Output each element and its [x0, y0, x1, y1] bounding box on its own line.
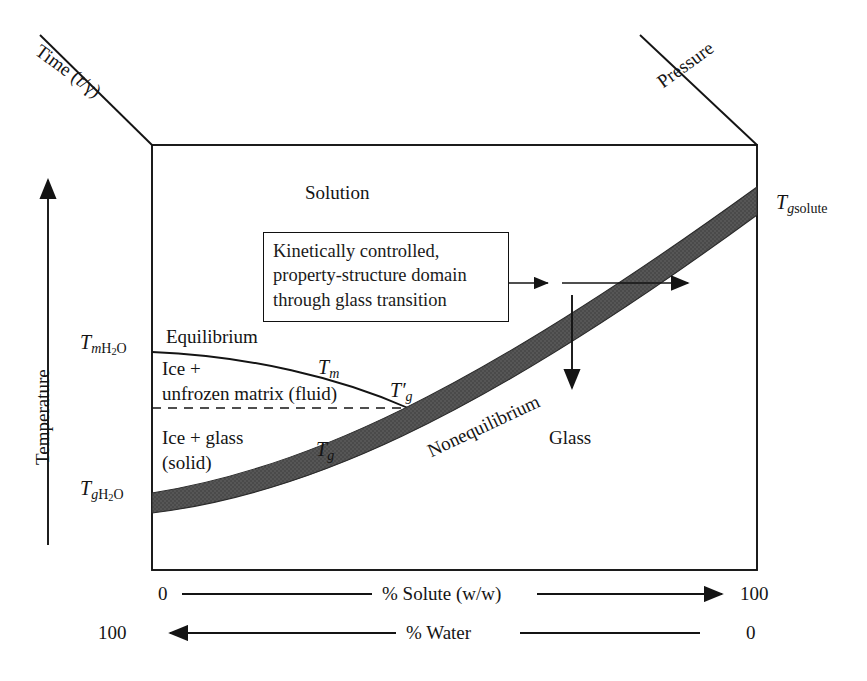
region-label-unfrozen-matrix: unfrozen matrix (fluid): [162, 383, 337, 404]
tm-curve-subscript: m: [329, 366, 339, 381]
kinetic-domain-callout: Kinetically controlled, property-structu…: [263, 232, 509, 322]
tg-prime-label: T′g: [390, 379, 413, 405]
x-axis-water-start-tick: 100: [98, 622, 127, 643]
tm-water-marker: TmH2O: [80, 331, 127, 358]
perspective-edges: [40, 35, 757, 145]
tg-solute-marker: Tgsolute: [776, 191, 828, 217]
tg-water-marker: TgH2O: [80, 477, 124, 504]
tg-band-symbol: T: [316, 438, 327, 460]
x-axis-solute-start-tick: 0: [158, 583, 168, 604]
region-label-ice-glass: Ice + glass: [162, 427, 243, 448]
region-label-solution: Solution: [305, 182, 369, 203]
tm-curve-label: Tm: [318, 356, 339, 382]
tg-solute-subsub: solute: [794, 201, 827, 216]
tg-band-label: Tg: [316, 438, 334, 464]
region-label-equilibrium: Equilibrium: [166, 326, 258, 347]
region-label-solid: (solid): [162, 452, 212, 473]
tm-water-symbol: T: [80, 331, 91, 353]
state-diagram-canvas: [0, 0, 867, 681]
tg-prime-subscript: g: [406, 389, 413, 404]
plot-frame: [152, 145, 757, 570]
tg-water-subsub-o: O: [113, 487, 123, 502]
tm-water-subsub-h: H: [101, 341, 111, 356]
tm-water-subscript: m: [91, 341, 101, 356]
tg-band-subscript: g: [327, 448, 334, 463]
tm-curve-symbol: T: [318, 356, 329, 378]
x-axis-water-end-tick: 0: [746, 622, 756, 643]
callout-line-2: property-structure domain: [273, 263, 500, 287]
callout-line-1: Kinetically controlled,: [273, 239, 500, 263]
temperature-axis-label: Temperature: [32, 369, 53, 465]
tg-prime-symbol: T: [390, 379, 401, 401]
callout-line-3: through glass transition: [273, 288, 500, 312]
region-label-glass: Glass: [549, 427, 591, 448]
tg-water-subsub-h: H: [98, 487, 108, 502]
tg-water-symbol: T: [80, 477, 91, 499]
region-label-ice-plus: Ice +: [162, 358, 201, 379]
tm-water-subsub-o: O: [117, 341, 127, 356]
x-axis-solute-label: % Solute (w/w): [382, 583, 501, 604]
tg-solute-symbol: T: [776, 191, 787, 213]
x-axis-solute-end-tick: 100: [740, 583, 769, 604]
x-axis-water-label: % Water: [406, 622, 471, 643]
